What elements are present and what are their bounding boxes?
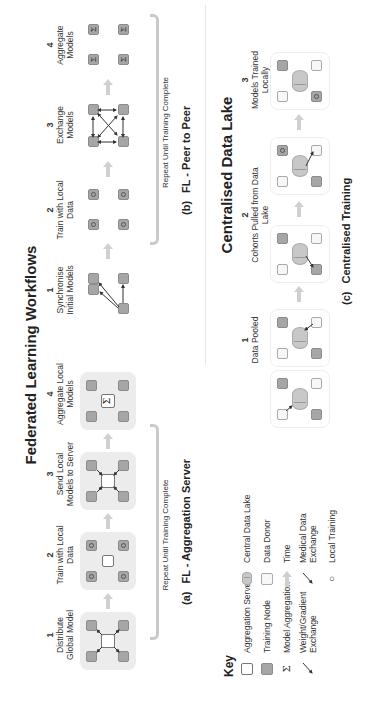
repeat-label: Repeat Until Training Complete (161, 430, 170, 640)
arrow-icon (301, 662, 315, 676)
step-number: 4 (45, 15, 55, 75)
diagram-canvas: Federated Learning Workflows Centralised… (0, 0, 377, 715)
step-text: Aggregate Local Models (55, 363, 75, 425)
panel-b-stage-1 (80, 260, 136, 320)
training-node-sigma: Σ (118, 24, 129, 35)
step-number: 2 (45, 180, 55, 240)
panel-b-step-1-label: 1 Synchronise Initial Models (45, 260, 75, 320)
aggregation-server-icon (241, 663, 253, 675)
panel-a-step-2-label: 2 Train with Local Data (45, 525, 75, 585)
key-label: Aggregation Server (242, 580, 252, 653)
key-label: Data Donor (262, 520, 272, 563)
arrow-icon (301, 572, 315, 586)
panel-c-step-2-label: 2 Cohorts Pulled from Data Lake (240, 165, 270, 265)
training-node (86, 380, 97, 391)
panel-c-caption: (c)Centralised Training (340, 178, 352, 305)
training-node-sigma: Σ (88, 24, 99, 35)
sync-arrows-icon (80, 260, 136, 320)
key-item-local-training: ○ Local Training (325, 510, 339, 587)
panel-caption-text: FL - Peer to Peer (180, 106, 192, 193)
time-arrow-icon (282, 571, 292, 587)
data-donor (311, 60, 322, 71)
training-node-icon (261, 663, 273, 675)
panel-b-caption: (b)FL - Peer to Peer (180, 106, 192, 215)
step-text: Data Pooled (250, 317, 260, 364)
time-arrow-icon (294, 201, 304, 217)
central-data-lake (292, 70, 308, 92)
inward-arrows-icon (80, 452, 136, 510)
time-arrow-icon (103, 243, 113, 259)
step-text: Train with Local Data (55, 180, 75, 239)
panel-b-step-4-label: 4 Aggregate Models (45, 15, 75, 75)
time-arrow-icon (103, 79, 113, 95)
panel-a-stage-3 (80, 452, 136, 510)
key-title: Key (222, 655, 236, 677)
time-arrow-icon (103, 593, 113, 609)
time-arrow-icon (294, 114, 304, 130)
panel-b-stage-2 (80, 180, 136, 240)
key-label: Training Node (262, 600, 272, 653)
training-node-sigma: Σ (118, 54, 129, 65)
training-node (118, 380, 129, 391)
key-label: Model Aggregation (282, 582, 292, 653)
repeat-bracket (150, 14, 159, 245)
panel-b-stage-4: Σ Σ Σ Σ (80, 15, 136, 75)
panel-b-stage-3 (80, 95, 136, 155)
panel-c-step-3-label: 3 Models Trained Locally (240, 45, 270, 115)
key-item-medical-data-exchange: Medical Data Exchange (298, 513, 318, 587)
time-arrow-icon (294, 286, 304, 302)
training-node-local-training (86, 571, 97, 582)
panel-c-stage-1 (270, 309, 330, 367)
panel-a-stage-2 (80, 532, 136, 590)
step-number: 2 (45, 525, 55, 585)
data-donor-icon (261, 573, 273, 585)
title-centralised-data-lake: Centralised Data Lake (218, 55, 235, 295)
training-node-sigma: Σ (88, 54, 99, 65)
step-number: 2 (240, 165, 250, 265)
panel-c-stage-0 (270, 370, 330, 428)
panel-a-caption: (a)FL - Aggregation Server (180, 459, 192, 605)
aggregation-server-sigma: Σ (101, 394, 115, 408)
panel-a-step-3-label: 3 Send Local Models to Server (45, 441, 75, 507)
training-node (118, 411, 129, 422)
panel-caption-text: FL - Aggregation Server (180, 459, 192, 584)
step-text: Send Local Models to Server (55, 442, 75, 506)
outward-arrows-icon (80, 612, 136, 670)
key-label: Weight/Gradient Exchange (298, 593, 318, 653)
key-label: Medical Data Exchange (298, 513, 318, 563)
panel-c-stage-3 (270, 137, 330, 195)
panel-c-stage-4 (270, 52, 330, 110)
central-data-lake-icon (242, 573, 252, 586)
key-item-aggregation-server: Aggregation Server (240, 580, 254, 677)
step-text: Aggregate Models (55, 25, 75, 64)
training-node-local-training (311, 91, 322, 102)
training-node-local-training (88, 189, 99, 200)
time-arrow-icon (103, 161, 113, 177)
key-item-time: Time (280, 544, 294, 587)
step-number: 1 (45, 605, 55, 665)
training-node-local-training (118, 571, 129, 582)
data-exchange-arrow-icon (271, 310, 329, 366)
key-label: Local Training (327, 510, 337, 563)
panel-c-step-1-label: 1 Data Pooled (240, 310, 260, 370)
step-text: Exchange Models (55, 106, 75, 144)
step-text: Distribute Global Model (55, 610, 75, 660)
exchange-arrows-icon (80, 95, 136, 155)
step-number: 3 (45, 441, 55, 507)
step-text: Synchronise Initial Models (55, 265, 75, 315)
panel-a-step-1-label: 1 Distribute Global Model (45, 605, 75, 665)
training-node (277, 60, 288, 71)
panel-b-step-2-label: 2 Train with Local Data (45, 180, 75, 240)
step-number: 4 (45, 361, 55, 427)
key-item-training-node: Training Node (260, 600, 274, 677)
key-label: Central Data Lake (242, 494, 252, 563)
panel-letter: (a) (180, 592, 192, 605)
circle-icon: ○ (325, 571, 339, 587)
panel-a-stage-1 (80, 612, 136, 670)
step-number: 1 (45, 260, 55, 320)
key-item-model-aggregation: Σ Model Aggregation (280, 582, 294, 677)
sigma-icon: Σ (280, 661, 294, 677)
title-federated-learning: Federated Learning Workflows (22, 235, 39, 475)
panel-c-stage-2 (270, 225, 330, 283)
panel-caption-text: Centralised Training (340, 178, 352, 284)
